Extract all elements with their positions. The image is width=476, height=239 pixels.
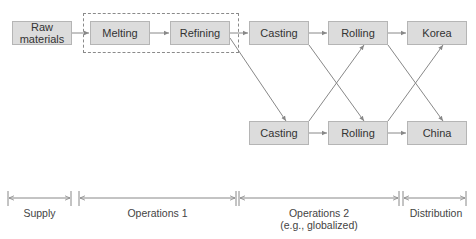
node-korea: Korea (407, 21, 467, 45)
node-rolling-top: Rolling (328, 21, 388, 45)
node-melting: Melting (90, 21, 150, 45)
node-casting-top: Casting (249, 21, 309, 45)
phase-label-operations1: Operations 1 (79, 207, 236, 219)
phase-label-operations2-note: (e.g., globalized) (239, 219, 399, 231)
phase-bracket-supply (8, 191, 71, 206)
node-casting-bottom: Casting (249, 121, 309, 145)
phase-label-operations2: Operations 2 (239, 207, 399, 219)
node-refining: Refining (170, 21, 230, 45)
phase-bracket-operations1 (79, 191, 236, 206)
node-raw-materials: Raw materials (12, 21, 72, 45)
phase-label-distribution: Distribution (400, 207, 472, 219)
node-rolling-bottom: Rolling (328, 121, 388, 145)
phase-bracket-distribution (403, 191, 466, 206)
phase-bracket-operations2 (239, 191, 399, 206)
node-china: China (407, 121, 467, 145)
phase-label-supply: Supply (8, 207, 71, 219)
